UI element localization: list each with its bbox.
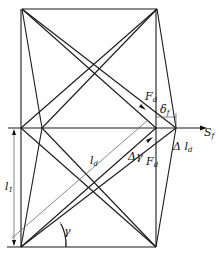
force-arrow-top bbox=[139, 104, 146, 110]
label-angle: γ bbox=[64, 225, 71, 238]
label-diag-length: ld bbox=[90, 154, 99, 168]
truss-diagram: Fd δf Sf Δ ld Fd Δγ ld l1 γ bbox=[0, 0, 219, 256]
label-delta: δf bbox=[160, 103, 171, 117]
label-shear: Sf bbox=[204, 126, 216, 140]
label-delta-l: Δ ld bbox=[172, 140, 193, 154]
label-delta-gamma: Δγ bbox=[127, 150, 143, 163]
labels: Fd δf Sf Δ ld Fd Δγ ld l1 γ bbox=[5, 90, 216, 238]
force-arrow-bottom bbox=[146, 137, 153, 143]
label-force-bottom: Fd bbox=[145, 155, 159, 169]
label-height: l1 bbox=[5, 180, 13, 194]
